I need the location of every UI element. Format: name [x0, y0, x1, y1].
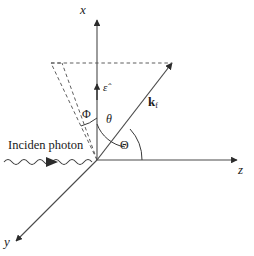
- incident-photon-arrowhead: [46, 157, 58, 167]
- scattering-geometry-figure: x y z ε̂ kf Φ θ Θ Inciden photon: [0, 0, 254, 256]
- y-axis: [16, 160, 97, 241]
- angle-label-capital-theta: Θ: [120, 139, 129, 151]
- kf-subscript: f: [155, 101, 158, 110]
- epsilon-hat-label: ε̂: [103, 82, 107, 93]
- incident-photon-label: Inciden photon: [8, 139, 83, 152]
- kf-vector-label: kf: [148, 95, 158, 108]
- incident-photon-wave: [4, 157, 92, 167]
- x-axis-label: x: [80, 3, 86, 16]
- y-axis-label: y: [4, 235, 10, 248]
- angle-label-theta: θ: [106, 113, 112, 125]
- wave-segment-left: [4, 160, 52, 165]
- capital-theta-arc-path: [130, 129, 142, 160]
- y-axis-line: [16, 160, 97, 241]
- angle-arc-capital-theta: [130, 129, 142, 160]
- diagram-canvas: [0, 0, 254, 256]
- angle-label-phi: Φ: [82, 108, 91, 120]
- z-axis-label: z: [238, 163, 243, 176]
